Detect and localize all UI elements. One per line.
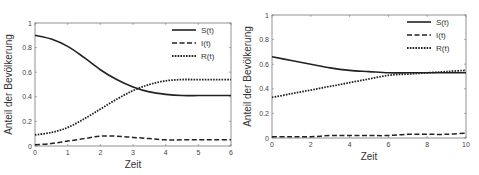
y-tick-label: 0.4 <box>22 93 32 100</box>
series-line-s <box>272 57 466 73</box>
x-tick-label: 4 <box>348 141 352 148</box>
y-tick-label: 1 <box>28 20 32 27</box>
y-tick-label: 1 <box>265 12 269 19</box>
x-tick-label: 0 <box>270 141 274 148</box>
x-tick-label: 4 <box>164 149 168 156</box>
x-tick-label: 8 <box>425 141 429 148</box>
x-tick-label: 1 <box>66 149 70 156</box>
legend-label: R(t) <box>201 52 215 61</box>
x-axis-label: Zeit <box>125 159 142 170</box>
series-line-i <box>272 133 466 137</box>
x-tick-label: 0 <box>33 149 37 156</box>
y-tick-label: 0.4 <box>259 85 269 92</box>
y-axis-label: Anteil der Bevölkerung <box>3 34 14 135</box>
x-tick-label: 2 <box>98 149 102 156</box>
chart-canvas: 012345600.20.40.60.81ZeitAnteil der Bevö… <box>0 0 479 175</box>
figure: 012345600.20.40.60.81ZeitAnteil der Bevö… <box>0 0 479 175</box>
y-tick-label: 0 <box>28 143 32 150</box>
x-tick-label: 5 <box>196 149 200 156</box>
x-tick-label: 6 <box>229 149 233 156</box>
legend-label: S(t) <box>436 18 449 27</box>
y-tick-label: 0.2 <box>259 110 269 117</box>
x-axis-label: Zeit <box>361 151 378 162</box>
x-tick-label: 2 <box>309 141 313 148</box>
y-tick-label: 0.2 <box>22 118 32 125</box>
y-tick-label: 0.8 <box>259 36 269 43</box>
legend-label: I(t) <box>201 39 211 48</box>
series-line-r <box>272 70 466 97</box>
y-tick-label: 0.6 <box>22 69 32 76</box>
series-line-i <box>35 136 231 145</box>
legend-label: S(t) <box>201 26 214 35</box>
y-tick-label: 0.8 <box>22 44 32 51</box>
legend-label: I(t) <box>436 31 446 40</box>
y-axis-label: Anteil der Bevölkerung <box>242 26 253 127</box>
x-tick-label: 10 <box>462 141 470 148</box>
y-tick-label: 0 <box>265 135 269 142</box>
legend-label: R(t) <box>436 44 450 53</box>
x-tick-label: 6 <box>386 141 390 148</box>
x-tick-label: 3 <box>131 149 135 156</box>
y-tick-label: 0.6 <box>259 61 269 68</box>
